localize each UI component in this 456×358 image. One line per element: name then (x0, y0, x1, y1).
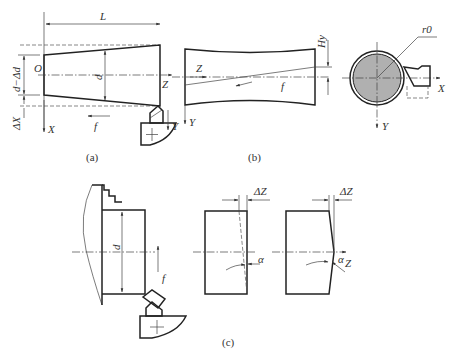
label-delta-Z-1: ΔZ (253, 185, 267, 197)
cutting-tool-b (404, 66, 430, 98)
panel-a-taper-error: L O Z d d−Δd ΔX X f (10, 10, 180, 164)
label-f-c: f (162, 272, 167, 284)
caption-b: (b) (248, 151, 261, 164)
label-f-a: f (94, 120, 99, 132)
label-d-minus-delta-d: d−Δd (10, 67, 22, 92)
label-Z-b: Z (196, 62, 203, 74)
cutting-tool-a (141, 106, 176, 145)
label-X-b: X (437, 82, 446, 94)
label-delta-Z-2: ΔZ (339, 185, 353, 197)
label-Y-b2: Y (382, 120, 390, 132)
panel-c-face-error: d f ΔZ α Z ΔZ α (c) (72, 185, 353, 349)
label-d-a: d (92, 74, 104, 80)
label-alpha-2: α (338, 253, 344, 265)
panel-b-saddle-error: Z f Y Hy X Y r0 (b) (172, 23, 446, 164)
convex-face-workpiece (286, 211, 334, 294)
label-r0: r0 (422, 23, 432, 35)
label-Z-a: Z (162, 78, 169, 90)
label-alpha-1: α (258, 253, 264, 265)
label-Y-b: Y (189, 116, 197, 128)
label-Y-a: Y (172, 120, 180, 132)
label-delta-X: ΔX (10, 116, 22, 131)
label-Hy: Hy (315, 35, 327, 49)
cutting-tool-c (140, 290, 186, 338)
label-d-c: d (110, 244, 122, 250)
machining-error-diagram: L O Z d d−Δd ΔX X f (0, 0, 456, 358)
label-L: L (99, 10, 106, 22)
caption-a: (a) (86, 151, 99, 164)
label-X-a: X (47, 123, 56, 135)
caption-c: (c) (222, 336, 235, 349)
label-Z-c: Z (345, 257, 352, 269)
label-O: O (34, 62, 42, 74)
label-f-b: f (281, 80, 286, 92)
